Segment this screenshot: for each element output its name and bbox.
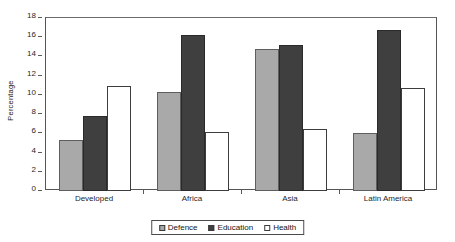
y-axis-title-text: Percentage bbox=[6, 80, 15, 120]
legend-swatch-defence bbox=[159, 225, 165, 231]
chart-legend: DefenceEducationHealth bbox=[151, 220, 305, 235]
bar-latin-america-health bbox=[401, 88, 425, 191]
y-axis-tick-label: 0 bbox=[32, 184, 36, 193]
bar-developed-education bbox=[83, 116, 107, 191]
legend-swatch-health bbox=[264, 225, 270, 231]
bar-asia-education bbox=[279, 45, 303, 191]
y-axis-tick-label: 6 bbox=[32, 126, 36, 135]
x-axis-label-latin-america: Latin America bbox=[364, 194, 412, 203]
y-axis-tick-mark bbox=[38, 36, 42, 37]
y-axis-tick-mark bbox=[38, 190, 42, 191]
legend-item-education[interactable]: Education bbox=[209, 223, 254, 232]
x-axis-group-separator bbox=[339, 190, 340, 194]
y-axis-tick-label: 14 bbox=[27, 49, 36, 58]
y-axis-tick-label: 2 bbox=[32, 165, 36, 174]
x-axis-label-africa: Africa bbox=[182, 194, 202, 203]
y-axis-tick-mark bbox=[38, 152, 42, 153]
bar-chart: Percentage 024681012141618 DevelopedAfri… bbox=[0, 0, 455, 242]
x-axis-group-separator bbox=[143, 190, 144, 194]
bar-asia-health bbox=[303, 129, 327, 191]
bar-asia-defence bbox=[255, 49, 279, 191]
bar-latin-america-defence bbox=[353, 133, 377, 191]
x-axis-label-asia: Asia bbox=[282, 194, 298, 203]
legend-swatch-education bbox=[209, 225, 215, 231]
legend-item-defence[interactable]: Defence bbox=[159, 223, 198, 232]
x-axis-group-separator bbox=[241, 190, 242, 194]
bar-africa-defence bbox=[157, 92, 181, 191]
bar-latin-america-education bbox=[377, 30, 401, 191]
y-axis-tick-label: 4 bbox=[32, 146, 36, 155]
y-axis-tick-mark bbox=[38, 17, 42, 18]
bar-africa-health bbox=[205, 132, 229, 191]
y-axis-tick-mark bbox=[38, 113, 42, 114]
plot-area bbox=[45, 17, 437, 190]
legend-label: Defence bbox=[168, 223, 198, 232]
bar-developed-health bbox=[107, 86, 131, 191]
legend-label: Health bbox=[273, 223, 296, 232]
x-axis-label-developed: Developed bbox=[75, 194, 113, 203]
y-axis-tick-label: 16 bbox=[27, 30, 36, 39]
y-axis-tick-mark bbox=[38, 75, 42, 76]
y-axis-tick-label: 8 bbox=[32, 107, 36, 116]
y-axis-tick-label: 18 bbox=[27, 11, 36, 20]
y-axis-tick-mark bbox=[38, 132, 42, 133]
bar-africa-education bbox=[181, 35, 205, 191]
y-axis-tick-label: 12 bbox=[27, 69, 36, 78]
legend-item-health[interactable]: Health bbox=[264, 223, 296, 232]
y-axis-tick-mark bbox=[38, 171, 42, 172]
legend-label: Education bbox=[218, 223, 254, 232]
y-axis-tick-mark bbox=[38, 55, 42, 56]
y-axis-tick-label: 10 bbox=[27, 88, 36, 97]
bar-developed-defence bbox=[59, 140, 83, 191]
y-axis-title: Percentage bbox=[2, 60, 18, 140]
y-axis-tick-mark bbox=[38, 94, 42, 95]
